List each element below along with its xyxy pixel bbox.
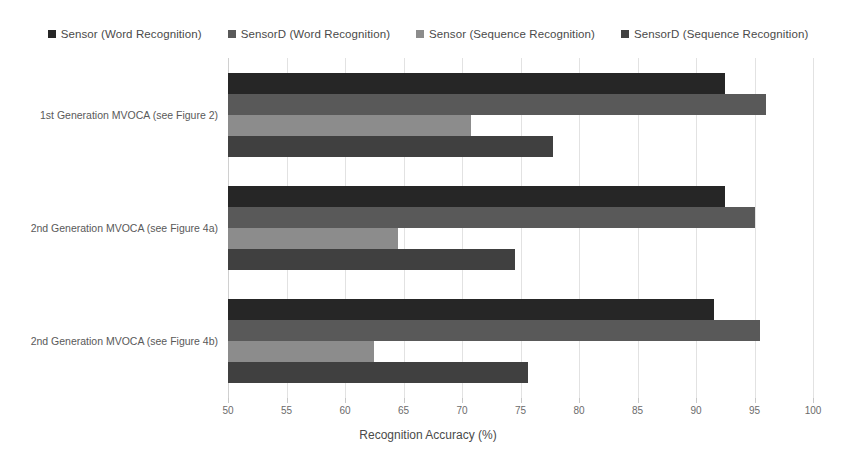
x-axis-tick-label: 50 [222,405,233,416]
x-axis-tick-label: 65 [398,405,409,416]
legend-swatch-icon [416,30,424,38]
bar-group [228,285,813,398]
x-axis-tick [696,398,697,403]
bar[interactable] [228,73,725,94]
chart-legend: Sensor (Word Recognition)SensorD (Word R… [0,24,856,44]
legend-item[interactable]: Sensor (Sequence Recognition) [416,28,595,40]
bar[interactable] [228,186,725,207]
x-axis-tick-label: 60 [339,405,350,416]
y-axis-tick-label: 1st Generation MVOCA (see Figure 2) [40,109,218,121]
legend-swatch-icon [48,30,56,38]
x-axis-tick-label: 85 [632,405,643,416]
x-axis-tick-label: 100 [805,405,822,416]
plot-area [228,58,813,398]
legend-item[interactable]: SensorD (Word Recognition) [228,28,390,40]
x-axis-tick [404,398,405,403]
legend-swatch-icon [621,30,629,38]
x-axis-tick [755,398,756,403]
bar[interactable] [228,228,398,249]
x-axis-tick [345,398,346,403]
bar-groups [228,58,813,398]
gridline [813,58,814,398]
legend-swatch-icon [228,30,236,38]
legend-label: Sensor (Word Recognition) [61,28,202,40]
x-axis-tick [287,398,288,403]
legend-label: Sensor (Sequence Recognition) [429,28,595,40]
bar[interactable] [228,115,471,136]
legend-label: SensorD (Sequence Recognition) [634,28,808,40]
x-axis-tick-label: 80 [573,405,584,416]
x-axis-tick [228,398,229,403]
bar[interactable] [228,249,515,270]
x-axis-tick [462,398,463,403]
legend-item[interactable]: Sensor (Word Recognition) [48,28,202,40]
x-axis: 50556065707580859095100 [228,398,813,420]
bar[interactable] [228,94,766,115]
y-axis-tick-label: 2nd Generation MVOCA (see Figure 4b) [31,335,218,347]
bar[interactable] [228,299,714,320]
legend-label: SensorD (Word Recognition) [241,28,390,40]
bar-group [228,171,813,284]
bar[interactable] [228,320,760,341]
x-axis-tick-label: 90 [690,405,701,416]
x-axis-tick-label: 70 [456,405,467,416]
x-axis-tick [813,398,814,403]
x-axis-tick-label: 95 [749,405,760,416]
legend-item[interactable]: SensorD (Sequence Recognition) [621,28,808,40]
x-axis-tick [579,398,580,403]
bar-group [228,58,813,171]
bar[interactable] [228,362,528,383]
x-axis-title: Recognition Accuracy (%) [0,428,856,442]
bar[interactable] [228,207,755,228]
y-axis-tick-label: 2nd Generation MVOCA (see Figure 4a) [31,222,218,234]
x-axis-tick-label: 55 [281,405,292,416]
y-axis-category-labels: 1st Generation MVOCA (see Figure 2)2nd G… [0,58,224,398]
bar[interactable] [228,341,374,362]
bar[interactable] [228,136,553,157]
x-axis-tick-label: 75 [515,405,526,416]
x-axis-tick [638,398,639,403]
x-axis-tick [521,398,522,403]
